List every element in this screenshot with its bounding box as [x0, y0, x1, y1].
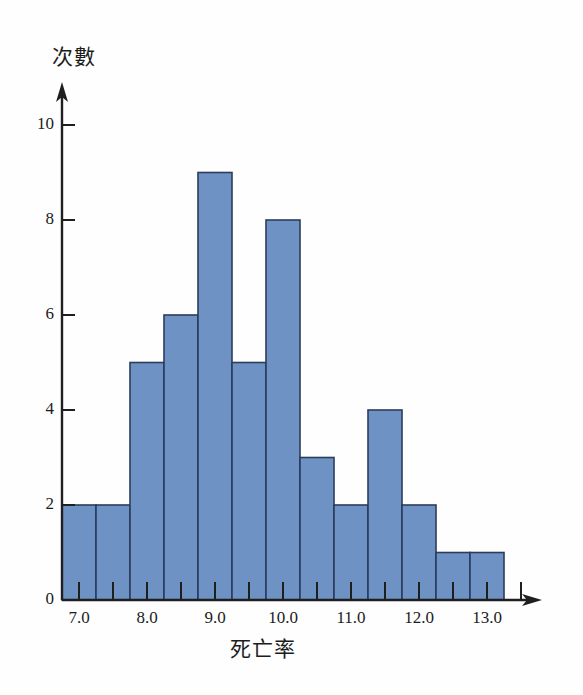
histogram-bar	[232, 363, 266, 601]
histogram-bar	[368, 410, 402, 600]
histogram-bar	[198, 173, 232, 601]
histogram-bar	[266, 220, 300, 600]
histogram-bar	[130, 363, 164, 601]
histogram-figure: 次數 死亡率 0246810 7.08.09.010.011.012.013.0	[0, 0, 583, 695]
histogram-bar	[164, 315, 198, 600]
histogram-plot-area	[0, 0, 583, 695]
bars-group	[62, 173, 504, 601]
histogram-bar	[300, 458, 334, 601]
